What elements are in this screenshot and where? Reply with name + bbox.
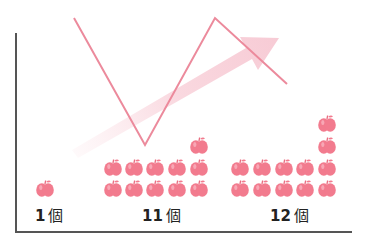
apple-icon bbox=[168, 160, 186, 176]
apple-icon bbox=[104, 160, 122, 176]
apple-icon bbox=[231, 181, 249, 197]
group-2-unit: 個 bbox=[166, 207, 181, 225]
apple-icon bbox=[296, 181, 314, 197]
group-3-label: 12個 bbox=[270, 204, 309, 225]
apple-icon bbox=[125, 181, 143, 197]
zigzag-line bbox=[74, 18, 287, 145]
apple-icon bbox=[231, 160, 249, 176]
apple-icon bbox=[318, 116, 336, 132]
group-1-label: 1個 bbox=[35, 204, 63, 225]
apple-icon bbox=[168, 181, 186, 197]
apple-group-1 bbox=[36, 181, 54, 197]
group-1-count: 1 bbox=[35, 207, 45, 225]
apple-icon bbox=[318, 138, 336, 154]
group-3-unit: 個 bbox=[294, 207, 309, 225]
apple-icon bbox=[104, 181, 122, 197]
apple-group-2 bbox=[104, 138, 208, 197]
group-2-label: 11個 bbox=[142, 204, 181, 225]
apple-icon bbox=[146, 181, 164, 197]
apple-icon bbox=[125, 160, 143, 176]
apple-icon bbox=[190, 181, 208, 197]
apple-icon bbox=[318, 160, 336, 176]
apple-icon bbox=[275, 181, 293, 197]
apple-icon bbox=[253, 181, 271, 197]
apple-icon bbox=[275, 160, 293, 176]
apple-count-diagram: 1個 11個 12個 bbox=[0, 0, 366, 249]
apple-icon bbox=[190, 138, 208, 154]
apple-icon bbox=[190, 160, 208, 176]
apple-group-3 bbox=[231, 116, 336, 197]
group-2-count: 11 bbox=[142, 207, 163, 225]
apple-icon bbox=[146, 160, 164, 176]
group-1-unit: 個 bbox=[48, 207, 63, 225]
trend-arrow-icon bbox=[72, 37, 279, 158]
group-3-count: 12 bbox=[270, 207, 291, 225]
apple-icon bbox=[36, 181, 54, 197]
apple-icon bbox=[318, 181, 336, 197]
apple-icon bbox=[296, 160, 314, 176]
apple-icon bbox=[253, 160, 271, 176]
